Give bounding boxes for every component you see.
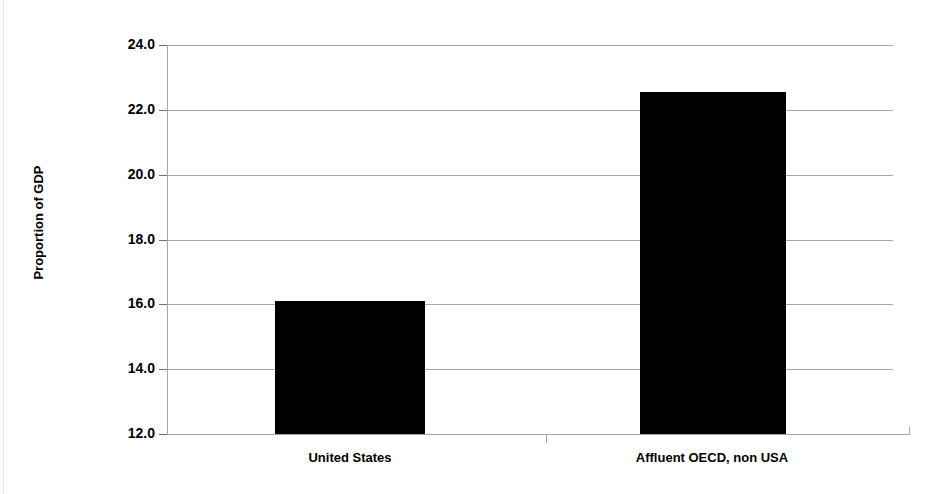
x-category-label: Affluent OECD, non USA — [562, 450, 862, 465]
y-tick-label: 16.0 — [85, 295, 155, 311]
y-tick-label: 22.0 — [85, 101, 155, 117]
y-tick-label-wrap: 18.0 — [85, 231, 155, 249]
y-tick-label: 14.0 — [85, 360, 155, 376]
y-tick-label-wrap: 20.0 — [85, 166, 155, 184]
gridline — [167, 45, 893, 46]
bar[interactable] — [640, 92, 786, 434]
y-tick-label-wrap: 14.0 — [85, 360, 155, 378]
y-tick-label: 12.0 — [85, 425, 155, 441]
y-tick-label-wrap: 24.0 — [85, 36, 155, 54]
y-tick-label: 18.0 — [85, 231, 155, 247]
y-axis-title: Proportion of GDP — [31, 123, 46, 323]
x-category-label: United States — [200, 450, 500, 465]
y-tick-label-wrap: 16.0 — [85, 295, 155, 313]
x-axis-end-tick — [909, 427, 910, 435]
y-tick-label: 20.0 — [85, 166, 155, 182]
y-tick-label-wrap: 12.0 — [85, 425, 155, 443]
chart-page: Proportion of GDP 24.022.020.018.016.014… — [0, 0, 932, 494]
y-tick-label: 24.0 — [85, 36, 155, 52]
category-divider-tick — [546, 434, 547, 443]
plot-area — [167, 45, 893, 434]
scan-artifact-line — [3, 0, 4, 494]
bar[interactable] — [275, 301, 425, 434]
y-tick-label-wrap: 22.0 — [85, 101, 155, 119]
